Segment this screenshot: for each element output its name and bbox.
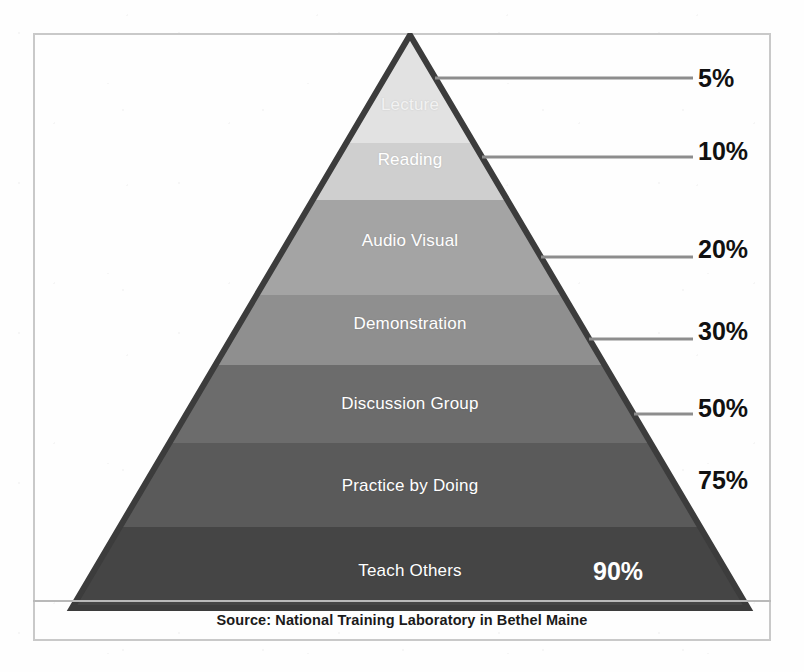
leader-line-20pct	[541, 256, 693, 259]
tier-label-practice-by-doing: Practice by Doing	[342, 476, 479, 496]
leader-line-50pct	[634, 413, 693, 416]
percent-label-demonstration: 30%	[698, 317, 748, 346]
tier-label-demonstration: Demonstration	[353, 314, 466, 334]
percent-label-reading: 10%	[698, 137, 748, 166]
leader-line-5pct	[435, 77, 693, 80]
leader-line-30pct	[589, 338, 693, 341]
figure-canvas: LectureReadingAudio VisualDemonstrationD…	[0, 0, 804, 672]
tier-label-reading: Reading	[378, 150, 443, 170]
tier-label-discussion-group: Discussion Group	[341, 394, 478, 414]
source-caption: Source: National Training Laboratory in …	[33, 612, 771, 628]
leader-line-10pct	[482, 156, 693, 159]
percent-label-lecture: 5%	[698, 64, 734, 93]
percent-label-discussion-group: 50%	[698, 394, 748, 423]
percent-label-teach-others: 90%	[593, 557, 643, 586]
percent-label-audio-visual: 20%	[698, 235, 748, 264]
tier-label-teach-others: Teach Others	[358, 561, 462, 581]
tier-label-audio-visual: Audio Visual	[362, 231, 459, 251]
tier-label-lecture: Lecture	[381, 95, 439, 115]
learning-pyramid-diagram: LectureReadingAudio VisualDemonstrationD…	[33, 33, 771, 641]
caption-divider	[33, 600, 771, 602]
percent-label-practice-by-doing: 75%	[698, 466, 748, 495]
